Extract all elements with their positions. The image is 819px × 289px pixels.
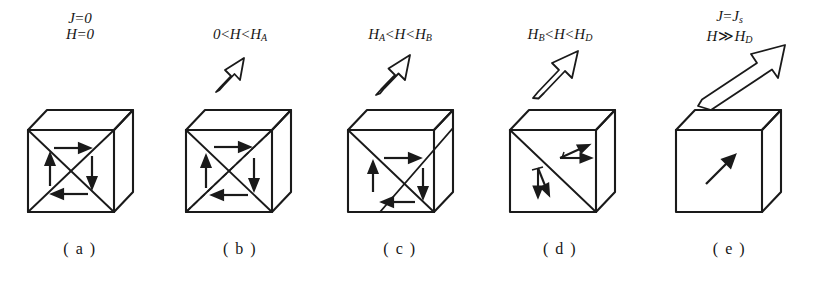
panel-e-label: ( e ) — [640, 240, 819, 258]
arrow-right — [54, 144, 90, 153]
panel-b: 0<H<HA — [160, 0, 320, 289]
arrow-up — [202, 156, 211, 188]
arrow-down — [419, 168, 428, 198]
panel-c-cube — [340, 100, 465, 225]
magnetization-domain-figure: J=0 H=0 — [0, 0, 819, 289]
panel-a-label: ( a ) — [0, 240, 160, 258]
panel-a: J=0 H=0 — [0, 0, 160, 289]
arrow-left — [382, 198, 415, 207]
arrow-down — [88, 156, 97, 188]
panel-d-cube — [502, 100, 627, 225]
panel-b-condition-line1: 0<H<HA — [213, 26, 267, 42]
rotating-arrow-pair-upper-right — [560, 145, 591, 162]
arrow-up — [46, 154, 55, 186]
panel-a-condition: J=0 H=0 — [0, 10, 160, 42]
panel-b-label: ( b ) — [160, 240, 320, 258]
rotating-arrow-pair-lower-left — [532, 167, 549, 197]
arrow-right — [384, 154, 420, 163]
panel-d-condition: HB<H<HD — [480, 26, 640, 46]
panel-c-condition-line1: HA<H<HB — [368, 26, 432, 42]
panel-b-field-arrow — [210, 52, 258, 96]
panel-e-condition-line1: J=Js — [716, 8, 743, 24]
panel-a-cube — [20, 100, 145, 225]
arrow-left — [52, 190, 88, 199]
panel-d-label: ( d ) — [480, 240, 640, 258]
arrow-left — [212, 191, 248, 200]
arrow-up — [369, 162, 378, 192]
panel-c-field-arrow — [372, 50, 428, 100]
panel-a-condition-line1: J=0 — [68, 10, 92, 26]
panel-a-condition-line2: H=0 — [0, 26, 160, 42]
arrow-diagonal-up-right — [706, 155, 735, 184]
panel-b-condition: 0<H<HA — [160, 26, 320, 46]
panel-c-condition: HA<H<HB — [320, 26, 480, 46]
panel-c-label: ( c ) — [320, 240, 480, 258]
arrow-right — [214, 143, 250, 152]
panel-e-cube — [668, 100, 793, 225]
panel-b-cube — [178, 100, 303, 225]
arrow-down — [250, 158, 259, 190]
panel-d-field-arrow — [530, 48, 600, 104]
panel-d-condition-line1: HB<H<HD — [528, 26, 593, 42]
panel-c: HA<H<HB — [320, 0, 480, 289]
panel-d: HB<H<HD — [480, 0, 640, 289]
panel-e: J=Js H≫HD — [640, 0, 819, 289]
